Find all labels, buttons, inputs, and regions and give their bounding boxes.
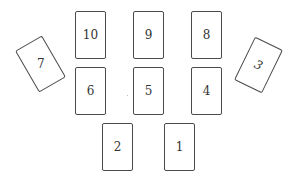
card-9: 9 xyxy=(133,11,164,59)
card-label: 9 xyxy=(145,28,153,42)
card-3: 3 xyxy=(234,37,283,94)
card-1: 1 xyxy=(164,123,195,171)
card-label: 3 xyxy=(252,57,265,73)
card-label: 7 xyxy=(37,57,45,71)
card-label: 6 xyxy=(87,84,95,98)
card-5: 5 xyxy=(133,67,164,115)
card-label: 4 xyxy=(203,84,211,98)
card-label: 5 xyxy=(145,84,153,98)
card-2: 2 xyxy=(102,123,133,171)
card-7: 7 xyxy=(15,35,66,92)
stray-dot xyxy=(127,95,128,96)
card-label: 1 xyxy=(176,140,184,154)
card-4: 4 xyxy=(191,67,222,115)
card-6: 6 xyxy=(75,67,106,115)
card-label: 10 xyxy=(83,28,98,42)
card-label: 2 xyxy=(114,140,122,154)
card-10: 10 xyxy=(75,11,106,59)
card-8: 8 xyxy=(191,11,222,59)
card-label: 8 xyxy=(203,28,211,42)
